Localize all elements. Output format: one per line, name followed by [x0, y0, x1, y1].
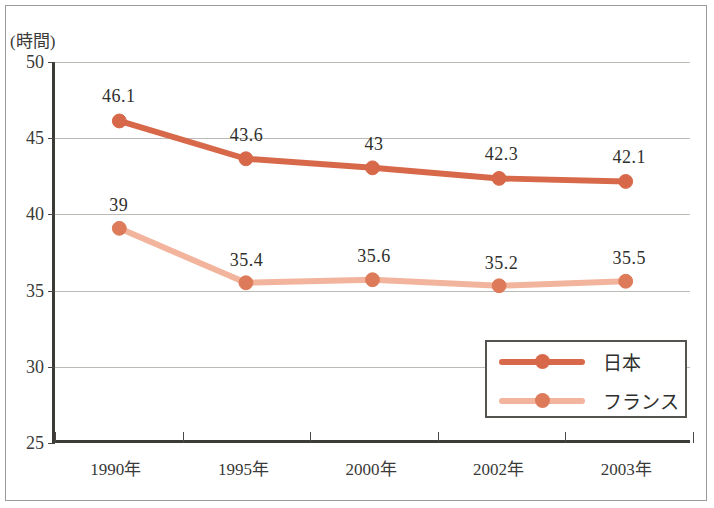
legend-swatch-japan	[499, 349, 585, 375]
chart-figure: (時間) 504540353025 46.143.64342.342.13935…	[0, 0, 714, 508]
y-tick-mark	[48, 138, 55, 139]
data-point-marker[interactable]	[492, 171, 506, 185]
legend-label-france: フランス	[603, 387, 679, 414]
data-point-marker[interactable]	[112, 221, 126, 235]
data-point-label: 35.4	[230, 250, 264, 271]
data-point-label: 42.3	[485, 144, 519, 165]
y-tick-label: 30	[26, 356, 44, 377]
data-point-label: 35.5	[612, 248, 646, 269]
x-tick-label: 2000年	[346, 455, 397, 480]
legend-label-japan: 日本	[603, 348, 641, 375]
y-tick-label: 45	[26, 128, 44, 149]
x-tick-label: 1995年	[218, 455, 269, 480]
legend-item-japan[interactable]: 日本	[487, 342, 685, 381]
data-point-label: 35.2	[485, 253, 519, 274]
y-tick-label: 40	[26, 204, 44, 225]
data-point-marker[interactable]	[492, 279, 506, 293]
data-point-label: 43	[365, 134, 384, 155]
y-axis-unit-label: (時間)	[10, 27, 55, 52]
data-point-marker[interactable]	[619, 175, 633, 189]
data-point-marker[interactable]	[112, 114, 126, 128]
y-tick-mark	[48, 367, 55, 368]
y-tick-mark	[48, 443, 55, 444]
legend-item-france[interactable]: フランス	[487, 381, 685, 420]
legend-swatch-france	[499, 388, 585, 414]
y-tick-label: 50	[26, 52, 44, 73]
data-point-label: 39	[109, 195, 128, 216]
x-tick-label: 2003年	[601, 455, 652, 480]
data-point-label: 35.6	[357, 246, 391, 267]
data-point-marker[interactable]	[239, 276, 253, 290]
x-tick-mark	[693, 432, 694, 443]
y-tick-mark	[48, 62, 55, 63]
data-point-marker[interactable]	[239, 152, 253, 166]
data-point-label: 42.1	[612, 147, 646, 168]
data-point-marker[interactable]	[619, 274, 633, 288]
chart-legend: 日本 フランス	[485, 340, 687, 418]
x-tick-label: 2002年	[473, 455, 524, 480]
y-tick-mark	[48, 291, 55, 292]
data-point-label: 46.1	[102, 86, 136, 107]
data-point-marker[interactable]	[366, 273, 380, 287]
x-tick-label: 1990年	[90, 455, 141, 480]
y-tick-label: 35	[26, 280, 44, 301]
y-tick-label: 25	[26, 433, 44, 454]
data-point-label: 43.6	[230, 125, 264, 146]
data-point-marker[interactable]	[366, 161, 380, 175]
y-tick-mark	[48, 214, 55, 215]
